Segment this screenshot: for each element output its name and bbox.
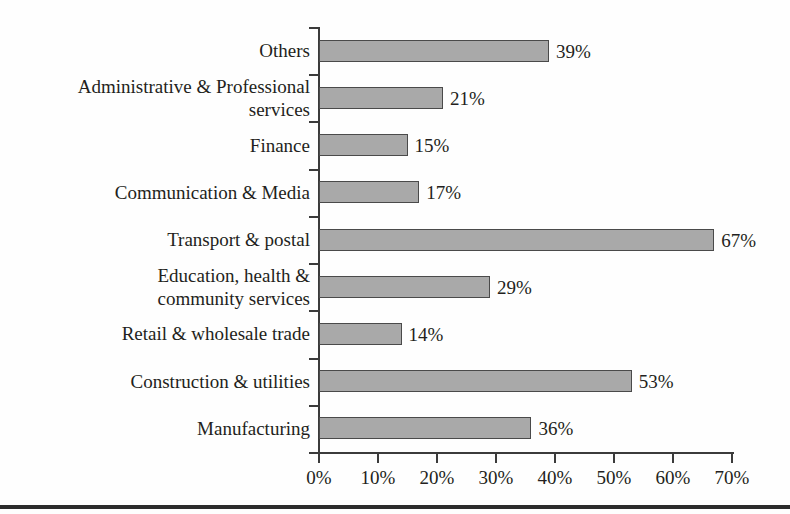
- y-axis-tick: [309, 263, 318, 265]
- x-axis-tick-label: 20%: [420, 467, 455, 489]
- bar-value-label: 17%: [426, 182, 461, 204]
- x-axis-tick-label: 10%: [361, 467, 396, 489]
- x-axis-tick: [377, 454, 379, 463]
- y-axis-tick: [309, 310, 318, 312]
- x-axis-tick: [318, 454, 320, 463]
- x-axis-tick: [554, 454, 556, 463]
- y-axis-tick: [309, 74, 318, 76]
- category-label: Finance: [0, 121, 310, 168]
- y-axis-tick: [309, 121, 318, 123]
- bar: [319, 276, 490, 298]
- x-axis-tick-label: 30%: [479, 467, 514, 489]
- category-label: Transport & postal: [0, 216, 310, 263]
- bar-value-label: 39%: [556, 41, 591, 63]
- y-axis-tick: [309, 27, 318, 29]
- x-axis-tick: [436, 454, 438, 463]
- category-label: Administrative & Professional services: [0, 74, 310, 121]
- y-axis-tick: [309, 405, 318, 407]
- bar-value-label: 14%: [409, 324, 444, 346]
- bar-value-label: 29%: [497, 277, 532, 299]
- y-axis-tick: [309, 169, 318, 171]
- plot-area: 39%21%15%17%67%29%14%53%36% 0%10%20%30%4…: [318, 27, 738, 452]
- bar: [319, 370, 632, 392]
- x-axis-tick-label: 40%: [538, 467, 573, 489]
- category-axis-labels: OthersAdministrative & Professional serv…: [0, 27, 310, 452]
- category-label: Education, health & community services: [0, 263, 310, 310]
- x-axis-tick: [613, 454, 615, 463]
- x-axis-tick: [731, 454, 733, 463]
- bar-value-label: 53%: [639, 371, 674, 393]
- bar: [319, 323, 402, 345]
- category-label: Communication & Media: [0, 169, 310, 216]
- bar-value-label: 36%: [538, 418, 573, 440]
- x-axis-tick-label: 50%: [597, 467, 632, 489]
- bar: [319, 181, 419, 203]
- bar-chart-figure: OthersAdministrative & Professional serv…: [0, 0, 790, 514]
- y-axis-tick: [309, 216, 318, 218]
- y-axis-tick: [309, 358, 318, 360]
- x-axis-tick: [672, 454, 674, 463]
- bar-value-label: 15%: [415, 135, 450, 157]
- category-label: Retail & wholesale trade: [0, 310, 310, 357]
- bar: [319, 40, 549, 62]
- bottom-divider-rule: [0, 505, 790, 509]
- y-axis-tick: [309, 452, 318, 454]
- bar: [319, 417, 531, 439]
- category-label: Others: [0, 27, 310, 74]
- category-label: Manufacturing: [0, 405, 310, 452]
- bar: [319, 134, 408, 156]
- bar-value-label: 67%: [721, 230, 756, 252]
- bar: [319, 87, 443, 109]
- x-axis-tick-label: 70%: [715, 467, 750, 489]
- category-label: Construction & utilities: [0, 358, 310, 405]
- bar-value-label: 21%: [450, 88, 485, 110]
- bar: [319, 229, 714, 251]
- x-axis-tick: [495, 454, 497, 463]
- x-axis-tick-label: 0%: [306, 467, 331, 489]
- x-axis-tick-label: 60%: [656, 467, 691, 489]
